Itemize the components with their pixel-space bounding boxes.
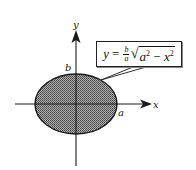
ellipse-diagram: y x b a <box>0 0 196 170</box>
equation-label-box: y = b a √ a2 − x2 <box>96 41 182 67</box>
sqrt-radical-icon: √ <box>130 46 138 60</box>
eq-exp-x: 2 <box>170 49 174 58</box>
y-axis-label: y <box>72 19 79 30</box>
eq-sqrt: √ a2 − x2 <box>130 46 174 63</box>
a-intercept-label: a <box>118 107 124 118</box>
x-axis-label: x <box>153 99 159 110</box>
eq-lhs: y <box>103 46 109 62</box>
eq-frac-denominator: a <box>124 55 128 63</box>
eq-sqrt-argument: a2 − x2 <box>139 46 175 63</box>
callout-pointer <box>101 67 146 80</box>
eq-equals: = <box>112 46 119 62</box>
eq-minus: − <box>150 49 164 64</box>
eq-fraction: b a <box>123 46 129 63</box>
b-intercept-label: b <box>65 62 71 73</box>
